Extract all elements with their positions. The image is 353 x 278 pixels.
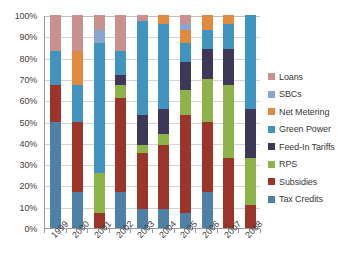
legend-item-subsidies[interactable]: Subsidies xyxy=(268,173,353,191)
legend-label: Feed-In Tariffs xyxy=(279,142,335,152)
bar-segment-green-power xyxy=(115,51,126,74)
y-axis-tick-label: 60% xyxy=(20,97,37,106)
legend-item-green-power[interactable]: Green Power xyxy=(268,121,353,139)
bar-2002 xyxy=(115,16,126,228)
legend-item-rps[interactable]: RPS xyxy=(268,156,353,174)
bar-segment-green-power xyxy=(50,51,61,85)
bar-segment-net-metering xyxy=(202,15,213,30)
x-axis-labels: 1999200020012002200320042005200620072008 xyxy=(44,233,260,278)
bar-segment-green-power xyxy=(202,30,213,49)
bar-segment-net-metering xyxy=(72,51,83,85)
bar-segment-rps xyxy=(94,173,105,213)
bar-segment-loans xyxy=(115,15,126,51)
legend-item-tax-credits[interactable]: Tax Credits xyxy=(268,191,353,209)
legend-item-feed-in-tariffs[interactable]: Feed-In Tariffs xyxy=(268,138,353,156)
legend-swatch-icon xyxy=(268,196,275,203)
legend-swatch-icon xyxy=(268,178,275,185)
y-axis-tick-label: 0% xyxy=(24,225,37,234)
y-axis-tick-label: 30% xyxy=(20,161,37,170)
bar-segment-subsidies xyxy=(50,85,61,121)
bar-segment-loans xyxy=(94,15,105,30)
bar-series-container xyxy=(45,16,260,228)
legend-label: Tax Credits xyxy=(279,194,323,204)
bar-segment-rps xyxy=(223,85,234,157)
bar-segment-loans xyxy=(137,15,148,21)
bar-segment-rps xyxy=(137,145,148,154)
bar-segment-feed-in-tariffs xyxy=(223,49,234,85)
stacked-bar-chart: 0%10%20%30%40%50%60%70%80%90%100% 199920… xyxy=(0,0,353,278)
legend-swatch-icon xyxy=(268,126,275,133)
legend-swatch-icon xyxy=(268,73,275,80)
bar-2007 xyxy=(223,16,234,228)
y-axis-tick-label: 10% xyxy=(20,203,37,212)
legend-label: SBCs xyxy=(279,89,302,99)
bar-2004 xyxy=(158,16,169,228)
y-axis-labels: 0%10%20%30%40%50%60%70%80%90%100% xyxy=(0,16,42,229)
bar-segment-subsidies xyxy=(115,98,126,192)
legend-swatch-icon xyxy=(268,143,275,150)
bar-segment-green-power xyxy=(137,21,148,115)
bar-2003 xyxy=(137,16,148,228)
chart-legend: LoansSBCsNet MeteringGreen PowerFeed-In … xyxy=(268,68,353,208)
bar-segment-rps xyxy=(158,134,169,145)
bar-segment-green-power xyxy=(180,43,191,62)
bar-segment-subsidies xyxy=(137,153,148,208)
bar-segment-loans xyxy=(50,15,61,51)
bar-segment-feed-in-tariffs xyxy=(115,75,126,86)
bar-segment-rps xyxy=(245,158,256,205)
bar-segment-rps xyxy=(115,85,126,98)
legend-label: Green Power xyxy=(279,124,331,134)
bar-segment-feed-in-tariffs xyxy=(158,109,169,135)
bar-segment-subsidies xyxy=(158,145,169,209)
y-axis-tick-label: 50% xyxy=(20,118,37,127)
y-axis-tick-label: 90% xyxy=(20,33,37,42)
bar-segment-subsidies xyxy=(223,158,234,228)
bar-segment-rps xyxy=(180,90,191,116)
bar-segment-sbcs xyxy=(94,30,105,43)
bar-2001 xyxy=(94,16,105,228)
legend-label: Net Metering xyxy=(279,107,329,117)
y-axis-tick-label: 20% xyxy=(20,182,37,191)
y-axis-tick-label: 100% xyxy=(15,12,37,21)
legend-swatch-icon xyxy=(268,91,275,98)
bar-segment-net-metering xyxy=(223,15,234,24)
legend-item-loans[interactable]: Loans xyxy=(268,68,353,86)
y-axis-tick-label: 80% xyxy=(20,54,37,63)
legend-label: Loans xyxy=(279,72,303,82)
legend-label: RPS xyxy=(279,159,297,169)
y-axis-tick-label: 70% xyxy=(20,75,37,84)
legend-label: Subsidies xyxy=(279,177,317,187)
legend-item-sbcs[interactable]: SBCs xyxy=(268,86,353,104)
bar-segment-feed-in-tariffs xyxy=(202,49,213,79)
bar-segment-loans xyxy=(180,15,191,24)
bar-segment-green-power xyxy=(223,24,234,50)
bar-segment-green-power xyxy=(72,85,83,121)
bar-segment-feed-in-tariffs xyxy=(137,115,148,145)
bar-segment-green-power xyxy=(94,43,105,173)
bar-segment-sbcs xyxy=(180,24,191,30)
bar-segment-rps xyxy=(202,79,213,122)
bar-2000 xyxy=(72,16,83,228)
bar-segment-feed-in-tariffs xyxy=(245,109,256,158)
bar-1999 xyxy=(50,16,61,228)
legend-item-net-metering[interactable]: Net Metering xyxy=(268,103,353,121)
bar-segment-green-power xyxy=(158,24,169,109)
bar-segment-net-metering xyxy=(158,15,169,24)
legend-swatch-icon xyxy=(268,108,275,115)
bar-segment-feed-in-tariffs xyxy=(180,62,191,90)
plot-area xyxy=(44,16,260,229)
bar-2008 xyxy=(245,16,256,228)
bar-segment-green-power xyxy=(245,15,256,109)
bar-2005 xyxy=(180,16,191,228)
bar-segment-tax-credits xyxy=(50,122,61,229)
bar-segment-subsidies xyxy=(202,122,213,192)
bar-segment-loans xyxy=(72,15,83,51)
bar-segment-net-metering xyxy=(180,30,191,43)
bar-2006 xyxy=(202,16,213,228)
bar-segment-subsidies xyxy=(72,122,83,192)
y-axis-tick-label: 40% xyxy=(20,139,37,148)
legend-swatch-icon xyxy=(268,161,275,168)
bar-segment-subsidies xyxy=(180,115,191,213)
